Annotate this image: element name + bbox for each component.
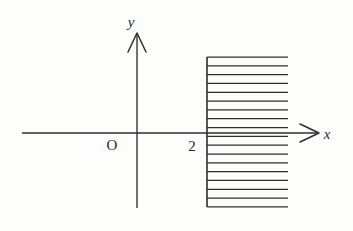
math-figure: x y O 2	[0, 0, 353, 231]
origin-label: O	[107, 137, 118, 153]
x-axis-label: x	[323, 126, 331, 142]
y-axis-label: y	[126, 14, 135, 30]
coordinate-plane-svg: x y O 2	[0, 0, 353, 231]
shaded-region-hatching	[207, 57, 288, 207]
x-intercept-label: 2	[188, 138, 196, 154]
